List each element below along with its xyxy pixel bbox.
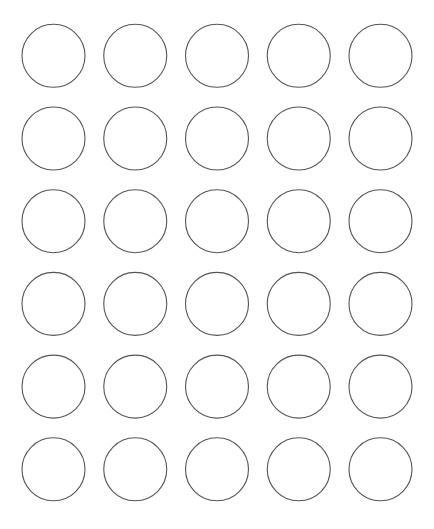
circle-r4-c3 — [186, 272, 249, 335]
circle-r6-c4 — [267, 438, 330, 501]
circle-r6-c1 — [22, 438, 85, 501]
circle-r2-c1 — [22, 107, 85, 170]
circle-r6-c3 — [186, 438, 249, 501]
circle-r3-c1 — [22, 190, 85, 253]
circle-r6-c5 — [349, 438, 412, 501]
circle-r5-c1 — [22, 355, 85, 418]
circle-r5-c3 — [186, 355, 249, 418]
circle-r3-c3 — [186, 190, 249, 253]
circle-r1-c5 — [349, 24, 412, 87]
circle-grid — [0, 0, 434, 529]
circle-r1-c4 — [267, 24, 330, 87]
circle-r1-c3 — [186, 24, 249, 87]
circle-r2-c3 — [186, 107, 249, 170]
circle-r2-c2 — [104, 107, 167, 170]
circle-r4-c1 — [22, 272, 85, 335]
circle-r2-c4 — [267, 107, 330, 170]
circle-r6-c2 — [104, 438, 167, 501]
circle-r4-c2 — [104, 272, 167, 335]
circle-r2-c5 — [349, 107, 412, 170]
circle-r4-c5 — [349, 272, 412, 335]
circle-r3-c2 — [104, 190, 167, 253]
circle-r3-c5 — [349, 190, 412, 253]
circle-r3-c4 — [267, 190, 330, 253]
circle-r4-c4 — [267, 272, 330, 335]
circle-r5-c4 — [267, 355, 330, 418]
circle-r1-c1 — [22, 24, 85, 87]
circle-r5-c2 — [104, 355, 167, 418]
circle-r5-c5 — [349, 355, 412, 418]
circle-r1-c2 — [104, 24, 167, 87]
